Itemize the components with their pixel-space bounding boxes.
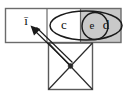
diagram-canvas: ī c d e [0,0,128,93]
diagram-svg: ī c d e [0,0,128,93]
label-e: e [90,19,95,31]
label-c: c [61,17,67,32]
label-bar-i: ī [23,13,28,28]
